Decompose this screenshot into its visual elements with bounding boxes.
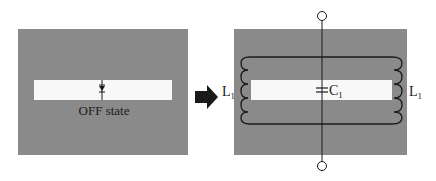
right-panel: C1 L1 L1 [222, 12, 422, 171]
right-arrow-icon [195, 85, 218, 109]
equivalent-circuit-diagram: OFF state C1 L1 [0, 0, 436, 181]
inductor-right-label: L1 [409, 84, 422, 101]
left-slot [34, 80, 172, 100]
top-terminal-icon [318, 12, 327, 21]
left-panel: OFF state [18, 29, 188, 155]
inductor-left-label: L1 [222, 84, 235, 101]
bottom-terminal-icon [318, 162, 327, 171]
off-state-label: OFF state [79, 103, 130, 118]
